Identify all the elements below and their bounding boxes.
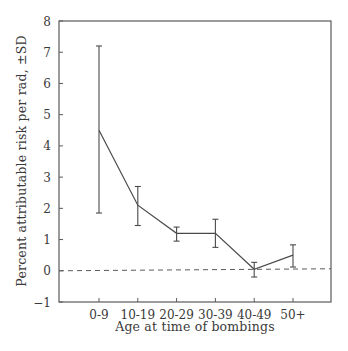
zero-reference-line <box>59 269 331 271</box>
y-tick-label: 6 <box>43 77 51 91</box>
y-tick-label: 8 <box>43 15 51 29</box>
dashed-zero-line <box>59 269 331 271</box>
y-tick-label: 2 <box>43 202 51 216</box>
chart: −1012345678 0-910-1920-2930-3940-4950+ A… <box>0 0 348 351</box>
x-tick-label: 50+ <box>280 308 305 322</box>
y-tick-label: 4 <box>43 139 51 153</box>
error-bars <box>96 46 296 277</box>
series-polyline <box>99 130 293 269</box>
y-tick-label: 1 <box>43 233 51 247</box>
y-tick-label: 0 <box>43 264 51 278</box>
plot-frame <box>59 21 331 302</box>
data-series-line <box>99 130 293 269</box>
y-axis-title: Percent attributable risk per rad, ±SD <box>14 35 29 286</box>
x-tick-label: 0-9 <box>89 308 108 322</box>
y-tick-label: −1 <box>33 296 51 310</box>
plot-border <box>59 21 331 302</box>
y-tick-label: 3 <box>43 171 51 185</box>
y-tick-label: 5 <box>43 108 51 122</box>
y-tick-label: 7 <box>43 46 51 60</box>
x-axis-title: Age at time of bombings <box>114 319 275 334</box>
